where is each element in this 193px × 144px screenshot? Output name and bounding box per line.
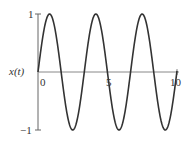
- y-tick-label-top: 1: [28, 9, 34, 20]
- x-tick-label-5: 5: [106, 77, 112, 88]
- y-axis-label: x(t): [9, 66, 24, 77]
- chart-plot: [0, 0, 193, 144]
- y-tick-label-bottom: −1: [20, 125, 32, 136]
- x-tick-label-10: 10: [170, 77, 181, 88]
- x-tick-label-0: 0: [40, 77, 46, 88]
